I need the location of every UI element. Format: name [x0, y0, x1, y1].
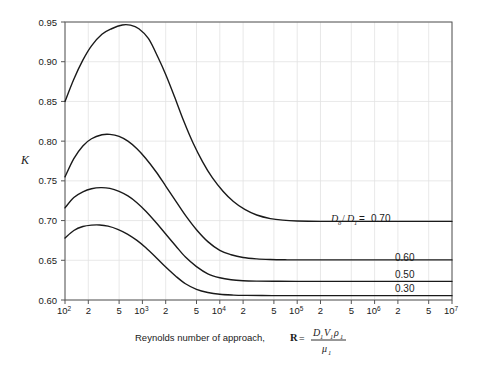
fraction-num-v-sub: 1	[330, 333, 333, 340]
y-tick-label: 0.60	[39, 295, 58, 306]
y-tick-label: 0.95	[39, 17, 58, 28]
annotation-value-030: 0.30	[395, 283, 415, 294]
annotation-value-050: 0.50	[395, 269, 415, 280]
y-axis-title: K	[20, 153, 30, 167]
x-axis-caption-prefix: Reynolds number of approach,	[135, 332, 265, 343]
y-tick-label: 0.90	[39, 56, 58, 67]
y-tick-label: 0.85	[39, 96, 58, 107]
x-axis-caption-equals: =	[299, 332, 305, 343]
x-tick-label: 5	[271, 305, 276, 316]
x-tick-label: 2	[86, 305, 91, 316]
x-tick-label: 5	[426, 305, 431, 316]
x-axis-caption-symbol: R	[290, 332, 298, 343]
annotation-slash: /	[342, 213, 345, 224]
x-tick-label: 5	[349, 305, 354, 316]
y-tick-label: 0.80	[39, 136, 58, 147]
annotation-value-070: 0.70	[371, 213, 391, 224]
x-tick-label: 5	[194, 305, 199, 316]
fraction-den-mu: μ	[321, 343, 327, 354]
annotation-value-060: 0.60	[395, 252, 415, 263]
x-tick-label: 2	[318, 305, 323, 316]
fraction-num-rho-sub: 1	[340, 333, 343, 340]
fraction-num-d-sub: 1	[320, 333, 323, 340]
chart-figure: 1022510325104251052510625107 0.950.900.8…	[0, 0, 483, 365]
x-tick-label: 2	[395, 305, 400, 316]
x-tick-label: 2	[163, 305, 168, 316]
annotation-d-denominator-sub: 1	[354, 219, 357, 226]
fraction-den-mu-sub: 1	[328, 349, 331, 356]
chart-canvas: 1022510325104251052510625107 0.950.900.8…	[0, 0, 483, 365]
x-tick-label: 2	[240, 305, 245, 316]
annotation-equals-070: =	[359, 213, 365, 224]
fraction-num-rho: ρ	[333, 327, 339, 338]
y-tick-label: 0.75	[39, 175, 58, 186]
x-tick-label: 5	[116, 305, 121, 316]
y-tick-label: 0.65	[39, 255, 58, 266]
y-tick-label: 0.70	[39, 215, 58, 226]
